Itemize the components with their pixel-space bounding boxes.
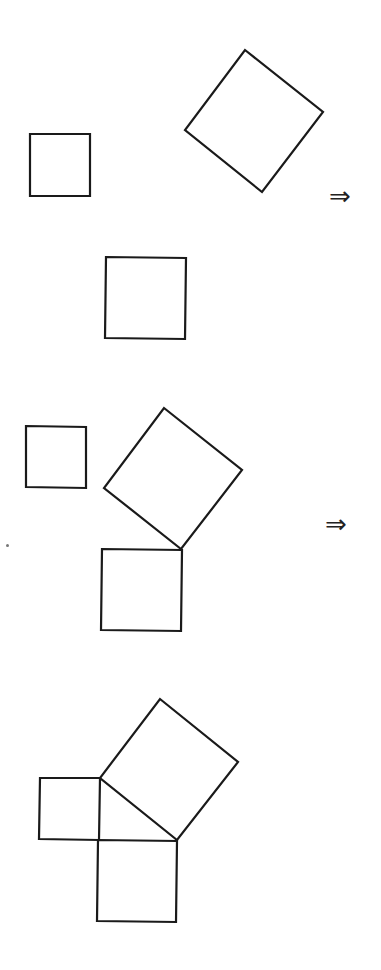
medium-square (97, 840, 177, 922)
tilted-square (104, 408, 242, 549)
implies-arrow-icon: ⇒ (329, 183, 351, 209)
small-square (26, 426, 86, 488)
stage-2-partially-joined (26, 408, 242, 631)
tilted-square (100, 699, 238, 840)
scan-speck (6, 544, 9, 547)
tilted-square (185, 50, 323, 192)
stage-1-separated (30, 50, 323, 339)
stage-3-joined-right-triangle (39, 699, 238, 922)
implies-arrow-icon: ⇒ (325, 511, 347, 537)
pythagorean-proof-diagram (0, 0, 381, 970)
medium-square (105, 257, 186, 339)
small-square (39, 778, 100, 840)
small-square (30, 134, 90, 196)
medium-square (101, 549, 182, 631)
